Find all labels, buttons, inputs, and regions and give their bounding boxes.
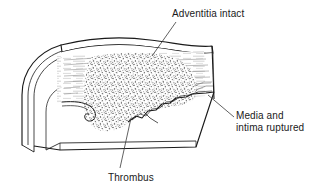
label-thrombus: Thrombus: [108, 172, 154, 184]
medical-illustration-figure: Adventitia intact Media and intima ruptu…: [0, 0, 313, 196]
leader-media-intima: [208, 95, 234, 117]
label-media-line1: Media and: [236, 110, 284, 121]
cut-vessel-end: [22, 45, 63, 152]
label-media-and-intima-ruptured: Media and intima ruptured: [236, 110, 304, 133]
label-adventitia-intact: Adventitia intact: [172, 8, 244, 20]
vessel-cross-section-diagram: [0, 0, 313, 196]
label-media-line2: intima ruptured: [236, 122, 304, 133]
